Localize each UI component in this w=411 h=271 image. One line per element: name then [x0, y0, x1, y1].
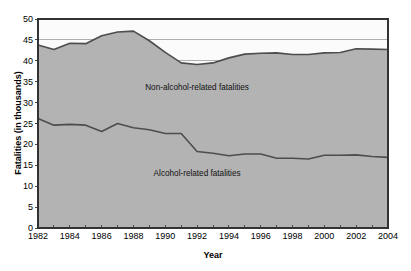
area-annotation-0: Non-alcohol-related fatalities: [145, 83, 249, 92]
fatalities-area-chart: Fatalities (in thousands) Year 051015202…: [0, 0, 411, 271]
area-annotation-1: Alcohol-related fatalities: [154, 169, 241, 178]
plot-area: Non-alcohol-related fatalitiesAlcohol-re…: [0, 0, 411, 271]
